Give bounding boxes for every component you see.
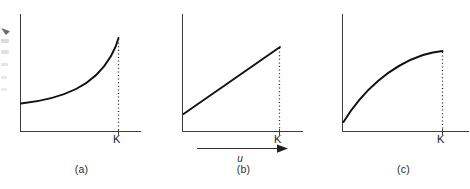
panel-c-caption: (c) xyxy=(326,163,470,175)
panel-c-curve xyxy=(344,51,443,122)
panel-a-caption: (a) xyxy=(4,163,159,175)
direction-arrow-group: u xyxy=(195,143,310,169)
figure-root: K (a) K (b) K (c) xyxy=(0,0,470,189)
panel-c-x-tick-label: K xyxy=(437,133,445,145)
panel-a-x-tick-label: K xyxy=(113,133,121,145)
panel-a: K (a) xyxy=(4,0,159,189)
panel-a-curve xyxy=(21,38,119,104)
panel-a-plot xyxy=(4,0,159,150)
panel-b-plot xyxy=(166,0,321,150)
direction-arrow-label: u xyxy=(195,153,285,164)
panel-c: K (c) xyxy=(326,0,470,189)
panel-b-curve xyxy=(184,47,281,114)
panel-c-plot xyxy=(326,0,470,150)
